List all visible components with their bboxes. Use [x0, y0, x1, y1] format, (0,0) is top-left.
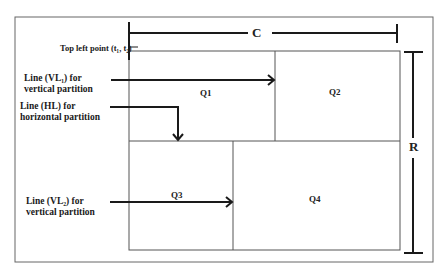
- width-label-c: C: [250, 25, 263, 41]
- quadrant-q1: Q1: [200, 88, 212, 98]
- arrow-vl1: [111, 75, 274, 85]
- arrow-hl: [110, 107, 183, 140]
- partition-diagram: [0, 0, 447, 277]
- quadrant-q4: Q4: [309, 194, 321, 204]
- quadrant-q2: Q2: [329, 87, 341, 97]
- top-left-point-label: Top left point (t₁, t₂): [60, 43, 132, 54]
- quadrant-q3: Q3: [171, 190, 183, 200]
- height-label-r: R: [407, 139, 420, 155]
- vl1-annotation: Line (VL₁) for vertical partition: [24, 73, 109, 95]
- hl-annotation: Line (HL) for horizontal partition: [20, 101, 110, 123]
- vl2-annotation: Line (VL₂) for vertical partition: [26, 196, 111, 218]
